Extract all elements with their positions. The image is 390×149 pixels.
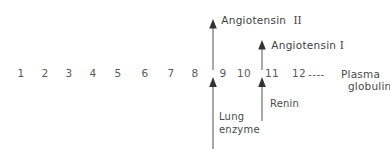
angiotensin-ii-roman-numeral: II [293,14,301,26]
residue-number-8: 8 [192,68,199,79]
angiotensin-i-label-base: Angiotensin [271,39,336,51]
angiotensin-i-roman-numeral: I [340,39,344,51]
lung-enzyme-label-line1: Lung [219,112,244,123]
angiotensin-i-label: Angiotensin I [257,29,344,62]
residue-number-11: 11 [265,68,279,79]
terminal-dashes: ---- [308,68,325,80]
residue-number-2: 2 [42,68,49,79]
residue-number-3: 3 [66,68,73,79]
residue-number-4: 4 [90,68,97,79]
lung-enzyme-label-line2: enzyme [219,125,260,136]
renin-label: Renin [270,99,299,110]
residue-number-12: 12 [292,68,306,79]
residue-number-10: 10 [237,68,251,79]
lung-enzyme-stem-arrow [209,77,217,149]
residue-number-7: 7 [168,68,175,79]
angiotensin-diagram: 1 2 3 4 5 6 7 8 9 10 11 12 ---- Plasma g… [0,0,390,149]
residue-number-9: 9 [220,68,227,79]
residue-number-5: 5 [115,68,122,79]
plasma-globulin-label-line2: globulin [348,80,390,92]
residue-number-1: 1 [18,68,25,79]
plasma-globulin-label-line1: Plasma [341,68,380,80]
angiotensin-ii-label-base: Angiotensin [221,14,286,26]
renin-stem-arrow [258,77,266,121]
residue-number-6: 6 [142,68,149,79]
